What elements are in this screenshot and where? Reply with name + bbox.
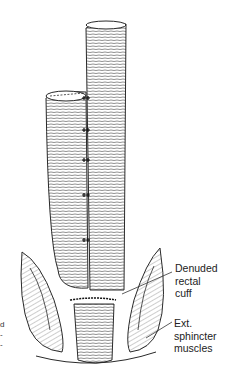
pelvic-muscle-right bbox=[128, 248, 164, 352]
afferent-bowel-limb bbox=[86, 21, 126, 290]
label-cropped-left: d - - bbox=[0, 320, 4, 350]
label-ext-sphincter-muscles: Ext. sphincter muscles bbox=[174, 317, 217, 355]
blind-limb bbox=[46, 91, 88, 288]
label-denuded-rectal-cuff: Denuded rectal cuff bbox=[175, 262, 218, 300]
